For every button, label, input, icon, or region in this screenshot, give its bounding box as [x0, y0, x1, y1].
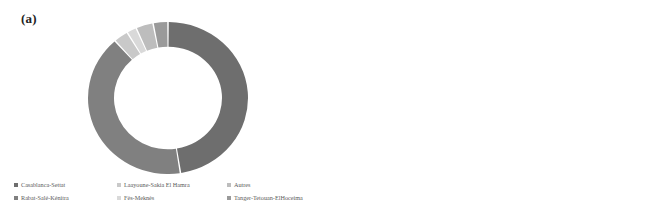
donut-legend-item[interactable]: Casablanca-Settat [14, 182, 117, 188]
figure-container: (a) Casablanca-SettatLaayoune-Sakia El H… [0, 0, 669, 213]
legend-label: Tanger-Tetouan-ElHoceima [234, 195, 303, 201]
donut-legend-item[interactable]: Fès-Meknès [117, 195, 227, 201]
donut-chart-plot [85, 22, 251, 174]
donut-slice [169, 22, 248, 173]
legend-marker-icon [14, 196, 18, 200]
legend-label: Autres [234, 182, 251, 188]
panel-b-bar-chart: (b) 0510152025303540 OtherServicesHealth… [335, 0, 669, 213]
panel-a-donut-chart: (a) Casablanca-SettatLaayoune-Sakia El H… [0, 0, 335, 213]
legend-label: Laayoune-Sakia El Hamra [124, 182, 190, 188]
legend-label: Casablanca-Settat [21, 182, 65, 188]
legend-marker-icon [117, 183, 121, 187]
donut-legend-item[interactable]: Tanger-Tetouan-ElHoceima [227, 195, 334, 201]
donut-slice-group [88, 22, 248, 174]
legend-marker-icon [117, 196, 121, 200]
legend-marker-icon [14, 183, 18, 187]
donut-legend-item[interactable]: Laayoune-Sakia El Hamra [117, 182, 227, 188]
donut-chart-legend: Casablanca-SettatLaayoune-Sakia El Hamra… [14, 179, 334, 205]
donut-slice [88, 41, 180, 174]
panel-a-label: (a) [21, 11, 37, 27]
legend-marker-icon [227, 196, 231, 200]
legend-marker-icon [227, 183, 231, 187]
legend-label: Fès-Meknès [124, 195, 154, 201]
legend-label: Rabat-Salé-Kénitra [21, 195, 69, 201]
donut-legend-item[interactable]: Autres [227, 182, 334, 188]
donut-legend-item[interactable]: Rabat-Salé-Kénitra [14, 195, 117, 201]
donut-svg [85, 22, 251, 174]
